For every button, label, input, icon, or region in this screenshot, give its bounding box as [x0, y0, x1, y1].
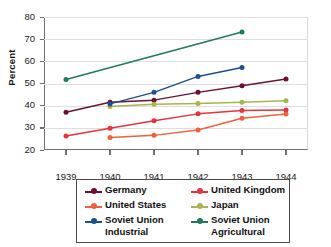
x-tick-mark [65, 150, 66, 155]
legend-item[interactable]: Germany [77, 184, 183, 199]
data-point [64, 134, 69, 139]
data-point [196, 90, 201, 95]
legend-item[interactable]: United States [77, 199, 183, 214]
data-point [64, 77, 69, 82]
data-point [284, 112, 289, 117]
series-line [110, 114, 286, 138]
legend-label: Germany [102, 184, 147, 196]
data-point [196, 74, 201, 79]
y-tick-label: 70 [9, 33, 35, 44]
y-axis-title: Percent [6, 38, 17, 98]
x-tick-mark [285, 150, 286, 155]
data-point [152, 118, 157, 123]
data-point [64, 110, 69, 115]
legend-item[interactable]: United Kingdom [183, 184, 289, 199]
legend-label: Soviet Union Agricultural [208, 214, 270, 237]
data-point [196, 111, 201, 116]
data-point [240, 30, 245, 35]
plot-area: 20304050607080 193919401941194219431944 [44, 17, 308, 150]
legend-marker-icon [191, 215, 208, 228]
legend-item[interactable]: Soviet Union Industrial [77, 214, 183, 238]
line-chart: Percent 20304050607080 19391940194119421… [0, 0, 331, 176]
chart-legend: GermanyUnited KingdomUnited StatesJapanS… [76, 179, 290, 243]
data-point [152, 102, 157, 107]
data-point [284, 77, 289, 82]
data-point [284, 98, 289, 103]
legend-label: Japan [208, 199, 239, 211]
legend-label: United Kingdom [208, 184, 285, 196]
data-point [152, 90, 157, 95]
legend-marker-icon [85, 200, 102, 213]
series-lines [44, 17, 308, 150]
legend-marker-icon [191, 200, 208, 213]
data-point [240, 108, 245, 113]
y-tick-label: 30 [9, 121, 35, 132]
data-point [196, 128, 201, 133]
data-point [240, 116, 245, 121]
data-point [152, 133, 157, 138]
y-tick-label: 80 [9, 11, 35, 22]
x-tick-mark [153, 150, 154, 155]
series-line [110, 68, 242, 104]
legend-item[interactable]: Japan [183, 199, 289, 214]
y-tick-label: 40 [9, 99, 35, 110]
x-tick-mark [241, 150, 242, 155]
data-point [240, 65, 245, 70]
legend-marker-icon [85, 185, 102, 198]
y-tick-label: 20 [9, 144, 35, 155]
legend-items: GermanyUnited KingdomUnited StatesJapanS… [77, 184, 289, 238]
data-point [196, 101, 201, 106]
data-point [108, 135, 113, 140]
data-point [240, 100, 245, 105]
data-point [108, 101, 113, 106]
y-tick-label: 50 [9, 77, 35, 88]
y-tick-label: 60 [9, 55, 35, 66]
legend-item[interactable]: Soviet Union Agricultural [183, 214, 289, 238]
chart-root: Percent 20304050607080 19391940194119421… [0, 0, 331, 247]
legend-marker-icon [85, 215, 102, 228]
x-tick-mark [109, 150, 110, 155]
legend-marker-icon [191, 185, 208, 198]
legend-label: Soviet Union Industrial [102, 214, 164, 237]
data-point [240, 83, 245, 88]
legend-label: United States [102, 199, 166, 211]
data-point [108, 126, 113, 131]
x-tick-mark [197, 150, 198, 155]
